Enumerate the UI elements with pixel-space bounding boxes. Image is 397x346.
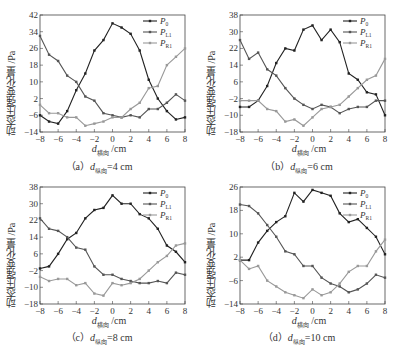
caption-d: （d）d纵向=10 cm — [200, 329, 397, 346]
data-point — [311, 24, 313, 26]
data-point — [348, 108, 350, 110]
data-point — [102, 207, 104, 209]
legend-item-PL1: PL1 — [359, 199, 372, 210]
data-point — [175, 118, 177, 120]
chart-panel-d: −8−6−4−202468−14−62101826P0PL1PR1 动态压强变化… — [200, 172, 397, 344]
x-axis-label-b: d横向 /cm — [210, 143, 397, 157]
y-tick-label: 18 — [29, 60, 39, 70]
data-point — [148, 282, 150, 284]
x-axis-label-d: d横向 /cm — [210, 315, 397, 329]
y-axis-label-a: 动态压强变化量 /Pa — [4, 26, 19, 136]
data-point — [93, 99, 95, 101]
data-point — [75, 232, 77, 234]
data-point — [257, 51, 259, 53]
data-point — [148, 217, 150, 219]
y-tick-label: 30 — [229, 27, 239, 37]
data-point — [293, 97, 295, 99]
data-point — [66, 116, 68, 118]
y-tick-label: 38 — [29, 182, 39, 192]
data-point — [93, 122, 95, 124]
data-point — [248, 58, 250, 60]
data-point — [284, 291, 286, 293]
data-point — [375, 250, 377, 252]
data-point — [284, 47, 286, 49]
data-point — [302, 200, 304, 202]
data-point — [348, 72, 350, 74]
data-point — [329, 291, 331, 293]
data-point — [348, 221, 350, 223]
legend-item-PR1: PR1 — [359, 210, 372, 221]
data-point — [66, 74, 68, 76]
legend-item-P0: P0 — [359, 188, 369, 199]
data-point — [302, 104, 304, 106]
chart-panel-a: −8−6−4−202468−14−621018263442P0PL1PR1 动态… — [0, 0, 198, 172]
data-point — [348, 271, 350, 273]
data-point — [148, 269, 150, 271]
data-point — [348, 291, 350, 293]
data-point — [120, 116, 122, 118]
data-point — [348, 95, 350, 97]
data-point — [375, 236, 377, 238]
data-point — [311, 265, 313, 267]
data-point — [239, 259, 241, 261]
data-point — [257, 241, 259, 243]
y-tick-label: −2 — [228, 94, 238, 104]
y-tick-label: 26 — [29, 43, 39, 53]
data-point — [102, 294, 104, 296]
data-point — [66, 278, 68, 280]
data-point — [320, 108, 322, 110]
data-point — [75, 81, 77, 83]
y-tick-label: 14 — [229, 60, 239, 70]
data-point — [93, 292, 95, 294]
data-point — [157, 85, 159, 87]
data-point — [129, 203, 131, 205]
data-point — [320, 294, 322, 296]
data-point — [166, 64, 168, 66]
data-point — [84, 248, 86, 250]
data-point — [375, 99, 377, 101]
data-point — [57, 112, 59, 114]
data-point — [75, 246, 77, 248]
data-point — [257, 212, 259, 214]
data-point — [39, 276, 41, 278]
data-point — [148, 79, 150, 81]
data-point — [102, 112, 104, 114]
data-point — [48, 120, 50, 122]
y-tick-label: −10 — [24, 282, 39, 292]
data-point — [384, 238, 386, 240]
data-point — [266, 230, 268, 232]
data-point — [375, 274, 377, 276]
data-point — [129, 108, 131, 110]
legend-item-PL1: PL1 — [159, 199, 172, 210]
data-point — [338, 112, 340, 114]
data-point — [384, 276, 386, 278]
data-point — [366, 227, 368, 229]
data-point — [311, 108, 313, 110]
data-point — [275, 221, 277, 223]
data-point — [293, 192, 295, 194]
y-tick-label: 2 — [34, 94, 39, 104]
data-point — [266, 279, 268, 281]
y-tick-label: 26 — [229, 182, 239, 192]
data-point — [248, 106, 250, 108]
data-point — [366, 79, 368, 81]
data-point — [138, 102, 140, 104]
data-point — [239, 99, 241, 101]
y-tick-label: 6 — [234, 77, 239, 87]
data-point — [48, 112, 50, 114]
data-point — [48, 265, 50, 267]
data-point — [39, 114, 41, 116]
x-axis-label-c: d横向 /cm — [10, 315, 208, 329]
y-tick-label: −18 — [24, 299, 39, 309]
data-point — [338, 104, 340, 106]
y-tick-label: 38 — [229, 10, 239, 20]
data-point — [120, 26, 122, 28]
data-point — [384, 253, 386, 255]
series-line-PL1 — [240, 40, 385, 113]
data-point — [320, 39, 322, 41]
y-tick-label: −18 — [224, 127, 239, 137]
data-point — [275, 74, 277, 76]
data-point — [84, 72, 86, 74]
legend-item-P0: P0 — [159, 16, 169, 27]
legend-item-PL1: PL1 — [359, 27, 372, 38]
